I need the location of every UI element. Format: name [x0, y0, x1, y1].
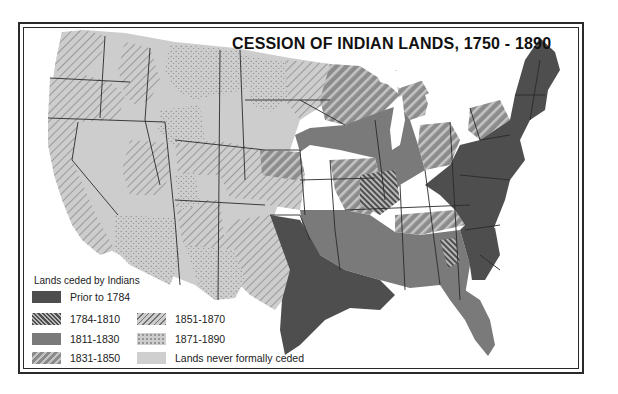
swatch-solid-dark-icon: [32, 291, 61, 303]
legend-label: Prior to 1784: [70, 291, 130, 303]
region-1851-utah-co: [122, 140, 170, 195]
legend-label: 1831-1850: [70, 352, 120, 364]
legend-label: 1871-1890: [175, 333, 225, 345]
legend-item-1811-1830: 1811-1830: [32, 333, 119, 345]
swatch-dots-icon: [137, 333, 166, 345]
legend-item-1871-1890: 1871-1890: [137, 333, 225, 345]
lake-erie-huron: [425, 88, 470, 125]
legend-item-1831-1850: 1831-1850: [32, 352, 120, 364]
map-title: CESSION OF INDIAN LANDS, 1750 - 1890: [232, 35, 551, 53]
legend-item-1784-1810: 1784-1810: [32, 313, 120, 325]
legend-label: Lands never formally ceded: [175, 352, 304, 364]
region-prior-1784-ga-sc: [465, 228, 500, 280]
legend-title: Lands ceded by Indians: [34, 275, 140, 286]
swatch-thin-hatch-icon: [137, 313, 166, 325]
legend-label: 1811-1830: [70, 333, 119, 345]
legend-item-1851-1870: 1851-1870: [137, 313, 225, 325]
swatch-solid-light-icon: [137, 352, 166, 364]
legend-item-prior-1784: Prior to 1784: [32, 291, 130, 303]
legend-label: 1784-1810: [70, 313, 120, 325]
region-1831-oklahoma: [260, 150, 305, 180]
legend-label: 1851-1870: [175, 313, 225, 325]
swatch-wide-hatch-icon: [32, 352, 61, 364]
region-1811-florida: [440, 285, 495, 356]
map-legend: Lands ceded by Indians Prior to 1784 178…: [30, 275, 290, 370]
legend-item-never-ceded: Lands never formally ceded: [137, 352, 304, 364]
swatch-dense-hatch-icon: [32, 313, 61, 325]
swatch-solid-medium-icon: [32, 333, 61, 345]
